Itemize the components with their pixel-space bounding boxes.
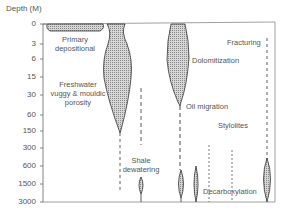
primary-depositional-shape: [47, 24, 104, 31]
label-line: vuggy & mouldic: [48, 89, 108, 98]
dolomitization-label: Dolomitization: [192, 56, 239, 65]
diagram-canvas: [0, 0, 288, 215]
fracturing-label: Fracturing: [227, 38, 261, 47]
label-line: dewatering: [116, 165, 166, 174]
label-line: depositional: [48, 44, 102, 53]
label-line: porosity: [48, 98, 108, 107]
tick-label: 60: [0, 111, 36, 119]
freshwater-label: Freshwater vuggy & mouldic porosity: [48, 80, 108, 107]
tick-label: 3000: [0, 198, 36, 206]
tick-label: 300: [0, 144, 36, 152]
dolomitization-shape: [167, 24, 189, 106]
oil-migration-shape: [179, 170, 184, 198]
tick-label: 6: [0, 55, 36, 63]
label-line: Shale: [116, 156, 166, 165]
freshwater-porosity-shape: [104, 24, 132, 133]
primary-depositional-label: Primary depositional: [48, 35, 102, 53]
label-line: Primary: [48, 35, 102, 44]
spindle-shape: [194, 166, 198, 202]
label-line: Freshwater: [48, 80, 108, 89]
oil-migration-label: Oil migration: [186, 102, 228, 111]
stylolites-label: Stylolites: [218, 121, 248, 130]
fracturing-shape: [264, 158, 271, 202]
tick-label: 600: [0, 162, 36, 170]
shale-dewatering-label: Shale dewatering: [116, 156, 166, 174]
tick-label: 0: [0, 20, 36, 28]
decarboxylation-label: Decarboxylation: [203, 187, 257, 196]
tick-label: 1500: [0, 180, 36, 188]
tick-label: 3: [0, 40, 36, 48]
tick-label: 15: [0, 73, 36, 81]
shale-dewatering-shape: [139, 177, 143, 194]
tick-label: 150: [0, 127, 36, 135]
axis-title: Depth (M): [6, 4, 42, 13]
tick-label: 30: [0, 91, 36, 99]
